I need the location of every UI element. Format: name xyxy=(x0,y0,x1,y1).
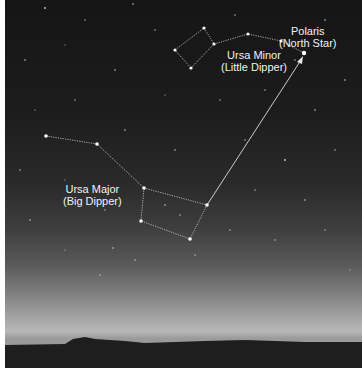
ursa-major-bowl xyxy=(141,188,207,239)
polaris-name: Polaris xyxy=(279,25,336,37)
polaris-label: Polaris (North Star) xyxy=(279,25,336,49)
arrow-head-icon xyxy=(297,56,303,64)
ursa-minor-bowl xyxy=(175,28,214,68)
ursa-major-subtitle: (Big Dipper) xyxy=(63,195,122,207)
ursa-minor-label: Ursa Minor (Little Dipper) xyxy=(221,49,287,73)
ursa-minor-subtitle: (Little Dipper) xyxy=(221,61,287,73)
ursa-major-handle xyxy=(46,136,144,188)
horizon-silhouette xyxy=(5,337,362,368)
ursa-minor-name: Ursa Minor xyxy=(221,49,287,61)
star-chart-overlay xyxy=(5,0,362,368)
ursa-major-label: Ursa Major (Big Dipper) xyxy=(63,183,122,207)
ursa-major-name: Ursa Major xyxy=(63,183,122,195)
night-sky-photo: Polaris (North Star) Ursa Minor (Little … xyxy=(5,0,362,368)
pointer-arrow-line xyxy=(207,60,301,205)
polaris-subtitle: (North Star) xyxy=(279,37,336,49)
